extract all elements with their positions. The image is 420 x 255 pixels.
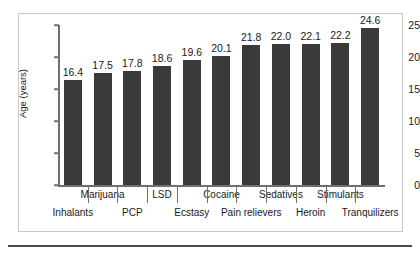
bar-value-label: 16.4 <box>63 66 83 78</box>
bar <box>212 56 230 185</box>
x-axis-category-label: LSD <box>152 189 171 200</box>
x-axis-category-label: Ecstasy <box>174 207 209 218</box>
x-axis-line <box>58 185 385 187</box>
bottom-divider-rule <box>8 245 412 247</box>
bar-value-label: 22.1 <box>300 30 320 42</box>
bar-value-label: 22.0 <box>271 30 291 42</box>
x-axis-category-label: PCP <box>122 207 143 218</box>
x-axis-category-label: Heroin <box>296 207 325 218</box>
x-axis-category-label: Inhalants <box>53 207 94 218</box>
bar <box>153 66 171 185</box>
bar-slot: 18.6 <box>147 25 177 185</box>
bar <box>123 71 141 185</box>
plot-area: 16.417.517.818.619.620.121.822.022.122.2… <box>58 25 385 185</box>
bar-slot: 22.1 <box>296 25 326 185</box>
bar-slot: 17.5 <box>88 25 118 185</box>
y-axis-label: Age (years) <box>17 44 28 144</box>
bar-slot: 20.1 <box>207 25 237 185</box>
bar-slot: 19.6 <box>177 25 207 185</box>
x-axis-separator-tick <box>177 186 178 203</box>
bar-value-label: 24.6 <box>360 14 380 26</box>
bar <box>242 45 260 185</box>
bar-slot: 17.8 <box>117 25 147 185</box>
x-axis-separator-tick <box>236 186 237 203</box>
bar-value-label: 22.2 <box>330 29 350 41</box>
bar-value-label: 20.1 <box>211 42 231 54</box>
x-axis-category-label: Stimulants <box>317 189 364 200</box>
bar-slot: 22.0 <box>266 25 296 185</box>
x-axis-category-label: Tranquilizers <box>342 207 399 218</box>
bar <box>272 44 290 185</box>
bar <box>361 28 379 185</box>
x-axis-separator-tick <box>117 186 118 203</box>
x-axis-separator-tick <box>355 186 356 203</box>
x-axis-separator-tick <box>326 186 327 203</box>
bar-slot: 24.6 <box>355 25 385 185</box>
x-axis-category-label: Pain relievers <box>221 207 282 218</box>
bar <box>302 44 320 185</box>
bar-slot: 21.8 <box>236 25 266 185</box>
x-axis-separator-tick <box>296 186 297 203</box>
x-axis-separator-tick <box>207 186 208 203</box>
bar <box>331 43 349 185</box>
bar-value-label: 21.8 <box>241 31 261 43</box>
bar-slot: 22.2 <box>326 25 356 185</box>
bar <box>64 80 82 185</box>
bar <box>183 60 201 185</box>
bar-value-label: 19.6 <box>182 46 202 58</box>
bar-chart-figure: Age (years) 0510152025 16.417.517.818.61… <box>0 0 420 255</box>
x-axis-separator-tick <box>266 186 267 203</box>
bar-value-label: 17.5 <box>92 59 112 71</box>
bar-value-label: 17.8 <box>122 57 142 69</box>
bar-slot: 16.4 <box>58 25 88 185</box>
x-axis-category-label: Cocaine <box>203 189 240 200</box>
x-axis-separator-tick <box>88 186 89 203</box>
bar-value-label: 18.6 <box>152 52 172 64</box>
bar <box>94 73 112 185</box>
x-axis-separator-tick <box>147 186 148 203</box>
